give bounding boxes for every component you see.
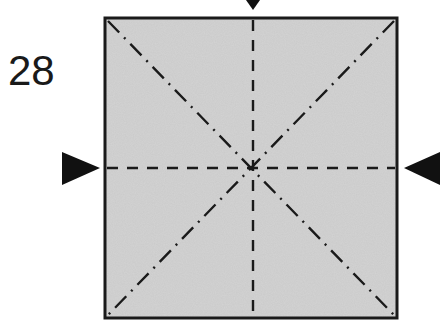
fold-diagram — [0, 0, 445, 323]
top-push-arrow-icon — [246, 0, 260, 10]
left-push-arrow-icon — [62, 152, 100, 185]
right-push-arrow-icon — [404, 152, 440, 185]
